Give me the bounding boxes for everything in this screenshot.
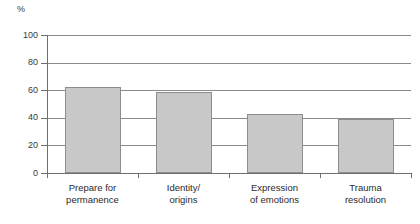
y-tick-40 bbox=[41, 118, 47, 119]
bar bbox=[247, 114, 303, 173]
x-tick-2 bbox=[229, 173, 230, 178]
category-label: Expressionof emotions bbox=[229, 182, 320, 206]
y-tick-0 bbox=[41, 173, 47, 174]
x-tick-1 bbox=[138, 173, 139, 178]
category-label-line: permanence bbox=[47, 194, 138, 206]
category-label: Traumaresolution bbox=[320, 182, 411, 206]
y-tick-20 bbox=[41, 145, 47, 146]
y-label-80: 80 bbox=[8, 58, 38, 67]
x-tick-0 bbox=[47, 173, 48, 178]
y-axis-tick-labels: 020406080100 bbox=[5, 0, 38, 224]
y-tick-60 bbox=[41, 90, 47, 91]
bar bbox=[156, 92, 212, 173]
y-tick-100 bbox=[41, 35, 47, 36]
y-label-100: 100 bbox=[8, 31, 38, 40]
y-label-60: 60 bbox=[8, 86, 38, 95]
category-label-line: Identity/ bbox=[138, 182, 229, 194]
bar bbox=[338, 119, 394, 173]
x-tick-3 bbox=[320, 173, 321, 178]
category-label-line: Expression bbox=[229, 182, 320, 194]
y-axis-line bbox=[47, 35, 48, 174]
gridline-100 bbox=[47, 35, 411, 36]
category-label-line: origins bbox=[138, 194, 229, 206]
gridline-80 bbox=[47, 63, 411, 64]
y-label-20: 20 bbox=[8, 141, 38, 150]
category-label: Identity/origins bbox=[138, 182, 229, 206]
y-tick-80 bbox=[41, 63, 47, 64]
category-label: Prepare forpermanence bbox=[47, 182, 138, 206]
x-tick-4 bbox=[411, 173, 412, 178]
bar bbox=[65, 87, 121, 173]
category-label-line: of emotions bbox=[229, 194, 320, 206]
bar-chart: % 020406080100 Prepare forpermanenceIden… bbox=[0, 0, 420, 224]
y-label-40: 40 bbox=[8, 113, 38, 122]
x-axis-ticks bbox=[0, 173, 420, 179]
category-label-line: Trauma bbox=[320, 182, 411, 194]
category-label-line: Prepare for bbox=[47, 182, 138, 194]
category-label-line: resolution bbox=[320, 194, 411, 206]
